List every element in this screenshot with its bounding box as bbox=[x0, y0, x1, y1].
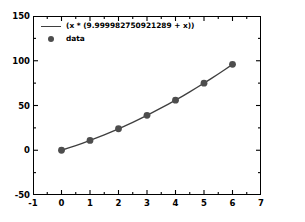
y-tick-label: 0 bbox=[2, 146, 30, 155]
x-tick-label: 0 bbox=[52, 199, 72, 208]
data-point bbox=[144, 112, 151, 119]
legend-item-data: data bbox=[40, 34, 194, 44]
x-tick-label: 3 bbox=[137, 199, 157, 208]
data-point bbox=[58, 147, 65, 154]
x-tick-label: 1 bbox=[80, 199, 100, 208]
data-point-markers bbox=[58, 61, 236, 154]
legend-line-swatch bbox=[40, 21, 62, 31]
data-point bbox=[87, 137, 94, 144]
x-tick-label: -1 bbox=[23, 199, 43, 208]
y-tick-label: 100 bbox=[2, 57, 30, 66]
data-point bbox=[201, 80, 208, 87]
data-point bbox=[115, 125, 122, 132]
y-tick-label: 50 bbox=[2, 102, 30, 111]
x-tick-label: 4 bbox=[166, 199, 186, 208]
legend-label-data: data bbox=[66, 35, 85, 42]
fit-line-series bbox=[62, 64, 233, 150]
chart-container: -50050100150 -101234567 (x * (9.99998275… bbox=[0, 0, 305, 222]
legend-marker-swatch bbox=[40, 34, 62, 44]
legend-label-fit: (x * (9.999982750921289 + x)) bbox=[66, 22, 194, 29]
x-tick-label: 7 bbox=[251, 199, 271, 208]
x-tick-label: 2 bbox=[109, 199, 129, 208]
data-point bbox=[229, 61, 236, 68]
y-tick-label: 150 bbox=[2, 12, 30, 21]
chart-legend: (x * (9.999982750921289 + x)) data bbox=[40, 21, 194, 44]
x-tick-label: 5 bbox=[194, 199, 214, 208]
data-point bbox=[172, 97, 179, 104]
x-tick-label: 6 bbox=[223, 199, 243, 208]
legend-item-fit: (x * (9.999982750921289 + x)) bbox=[40, 21, 194, 31]
